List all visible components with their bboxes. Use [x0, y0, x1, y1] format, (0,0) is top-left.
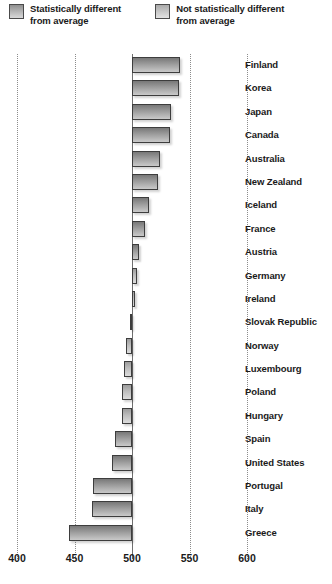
chart-bar-portugal[interactable]: [93, 478, 132, 494]
chart-row: Greece: [0, 522, 332, 545]
chart-category-label-korea: Korea: [245, 80, 271, 96]
chart-category-label-ireland: Ireland: [245, 291, 275, 307]
chart-category-label-poland: Poland: [245, 384, 276, 400]
chart-row: United States: [0, 452, 332, 475]
chart-x-tick-label-550: 550: [181, 552, 199, 564]
chart-category-label-portugal: Portugal: [245, 478, 283, 494]
chart-category-label-iceland: Iceland: [245, 197, 277, 213]
chart-row: Slovak Republic: [0, 311, 332, 334]
chart-bar-korea[interactable]: [132, 80, 179, 96]
chart-row: Finland: [0, 54, 332, 77]
chart-category-label-austria: Austria: [245, 244, 277, 260]
chart-category-label-australia: Australia: [245, 151, 285, 167]
chart-row: France: [0, 218, 332, 241]
chart-bar-greece[interactable]: [69, 525, 132, 541]
chart-bar-iceland[interactable]: [132, 197, 149, 213]
legend-label-not-significant: Not statistically different from average: [176, 3, 284, 26]
chart-bar-united-states[interactable]: [112, 455, 132, 471]
legend-item-statistically-different: Statistically different from average: [9, 3, 121, 36]
chart-row: Korea: [0, 77, 332, 100]
chart-bar-hungary[interactable]: [122, 408, 132, 424]
chart-x-tick-label-400: 400: [8, 552, 26, 564]
chart-bar-ireland[interactable]: [132, 291, 135, 307]
chart-bar-norway[interactable]: [126, 338, 132, 354]
chart-bar-luxembourg[interactable]: [124, 361, 132, 377]
chart-category-label-slovak-republic: Slovak Republic: [245, 314, 317, 330]
chart-category-label-france: France: [245, 221, 276, 237]
chart-bar-australia[interactable]: [132, 151, 160, 167]
chart-bar-finland[interactable]: [132, 57, 180, 73]
chart-category-label-new-zealand: New Zealand: [245, 174, 302, 190]
chart-row: New Zealand: [0, 171, 332, 194]
chart-row: Norway: [0, 335, 332, 358]
chart-bar-rows: FinlandKoreaJapanCanadaAustraliaNew Zeal…: [0, 54, 332, 545]
chart-bar-germany[interactable]: [132, 268, 137, 284]
chart-category-label-norway: Norway: [245, 338, 279, 354]
legend-label-significant: Statistically different from average: [30, 3, 121, 26]
chart-bar-poland[interactable]: [122, 384, 132, 400]
chart-category-label-japan: Japan: [245, 104, 272, 120]
chart-x-tick-label-500: 500: [123, 552, 141, 564]
chart-category-label-luxembourg: Luxembourg: [245, 361, 302, 377]
chart-category-label-greece: Greece: [245, 525, 277, 541]
chart-row: Poland: [0, 381, 332, 404]
chart-row: Australia: [0, 148, 332, 171]
chart-x-tick-label-600: 600: [238, 552, 256, 564]
chart-bar-spain[interactable]: [115, 431, 132, 447]
chart-legend: Statistically different from average Not…: [0, 0, 332, 36]
chart-bar-canada[interactable]: [132, 127, 170, 143]
chart-bar-new-zealand[interactable]: [132, 174, 158, 190]
chart-bar-france[interactable]: [132, 221, 145, 237]
chart-category-label-hungary: Hungary: [245, 408, 283, 424]
chart-row: Ireland: [0, 288, 332, 311]
chart-row: Spain: [0, 428, 332, 451]
legend-swatch-icon-significant: [9, 4, 24, 19]
chart-bar-austria[interactable]: [132, 244, 139, 260]
chart-plot-area: FinlandKoreaJapanCanadaAustraliaNew Zeal…: [0, 40, 332, 550]
chart-bar-slovak-republic[interactable]: [130, 314, 132, 330]
legend-item-not-statistically-different: Not statistically different from average: [155, 3, 284, 36]
chart-row: Hungary: [0, 405, 332, 428]
chart-row: Germany: [0, 265, 332, 288]
chart-row: Portugal: [0, 475, 332, 498]
chart-row: Canada: [0, 124, 332, 147]
chart-x-tick-label-450: 450: [66, 552, 84, 564]
chart-x-axis: 400450500550600: [0, 552, 332, 584]
chart-category-label-spain: Spain: [245, 431, 270, 447]
chart-row: Luxembourg: [0, 358, 332, 381]
chart-category-label-germany: Germany: [245, 268, 286, 284]
chart-row: Austria: [0, 241, 332, 264]
chart-category-label-italy: Italy: [245, 501, 264, 517]
chart-category-label-canada: Canada: [245, 127, 279, 143]
chart-category-label-finland: Finland: [245, 57, 278, 73]
chart-row: Iceland: [0, 194, 332, 217]
chart-row: Italy: [0, 498, 332, 521]
legend-swatch-icon-not-significant: [155, 4, 170, 19]
chart-category-label-united-states: United States: [245, 455, 304, 471]
chart-bar-italy[interactable]: [92, 501, 132, 517]
chart-bar-japan[interactable]: [132, 104, 171, 120]
chart-row: Japan: [0, 101, 332, 124]
